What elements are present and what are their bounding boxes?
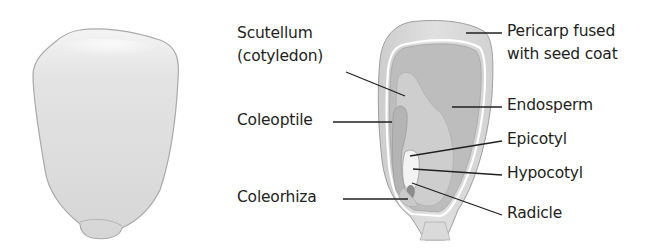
label-pericarp-seed-coat: with seed coat xyxy=(507,45,618,64)
label-scutellum-cotyledon: (cotyledon) xyxy=(237,47,323,66)
label-endosperm: Endosperm xyxy=(507,96,593,115)
label-radicle: Radicle xyxy=(507,204,562,223)
label-epicotyl: Epicotyl xyxy=(507,130,567,149)
kernel-section-illustration xyxy=(378,20,493,240)
whole-kernel-illustration xyxy=(33,29,178,239)
label-hypocotyl: Hypocotyl xyxy=(507,164,583,183)
label-coleorhiza: Coleorhiza xyxy=(237,188,317,207)
label-scutellum: Scutellum xyxy=(237,24,313,43)
label-pericarp: Pericarp fused xyxy=(507,22,615,41)
corn-kernel-diagram: Scutellum (cotyledon) Coleoptile Coleorh… xyxy=(0,0,664,249)
label-coleoptile: Coleoptile xyxy=(237,111,313,130)
